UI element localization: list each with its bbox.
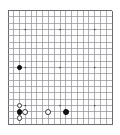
white-stone[interactable] <box>17 103 23 109</box>
white-stone[interactable] <box>22 109 28 115</box>
white-stone[interactable] <box>17 115 23 121</box>
black-stone[interactable] <box>17 65 23 71</box>
stone-layer <box>6 8 114 127</box>
goban-app <box>0 0 120 135</box>
go-board[interactable] <box>6 8 114 127</box>
black-stone[interactable] <box>63 109 69 115</box>
white-stone[interactable] <box>45 109 51 115</box>
